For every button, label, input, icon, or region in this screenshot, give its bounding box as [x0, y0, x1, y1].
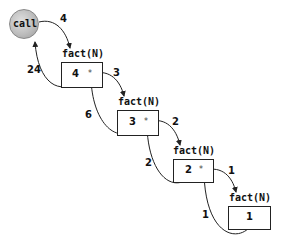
- frame-value-1: 4: [72, 69, 79, 79]
- return-label-4: 1: [202, 210, 209, 220]
- frame-title-2: fact(N): [118, 97, 160, 107]
- recursion-diagram: call 4 24 3 6 2 2 1 1 fact(N) 4 * fact(N…: [0, 0, 283, 248]
- return-label-3: 2: [145, 158, 152, 168]
- arg-label-1: 4: [60, 14, 67, 24]
- frame-marker-1: *: [88, 70, 92, 78]
- frame-value-2: 3: [129, 117, 136, 127]
- frame-box-3: [173, 159, 214, 183]
- call-label: call: [11, 18, 39, 29]
- frame-marker-2: *: [144, 118, 148, 126]
- return-label-1: 24: [27, 65, 41, 75]
- return-label-2: 6: [85, 110, 92, 120]
- frame-box-1: [61, 62, 103, 88]
- frame-value-3: 2: [185, 165, 192, 175]
- frame-title-3: fact(N): [173, 146, 215, 156]
- frame-title-1: fact(N): [62, 49, 104, 59]
- frame-box-2: [117, 110, 159, 136]
- frame-value-4: 1: [246, 212, 253, 222]
- frame-marker-3: *: [199, 166, 203, 174]
- arg-label-3: 2: [172, 117, 179, 127]
- arg-label-4: 1: [228, 166, 235, 176]
- call-arrow-1: [39, 21, 70, 48]
- arg-label-2: 3: [113, 68, 120, 78]
- frame-title-4: fact(N): [229, 193, 271, 203]
